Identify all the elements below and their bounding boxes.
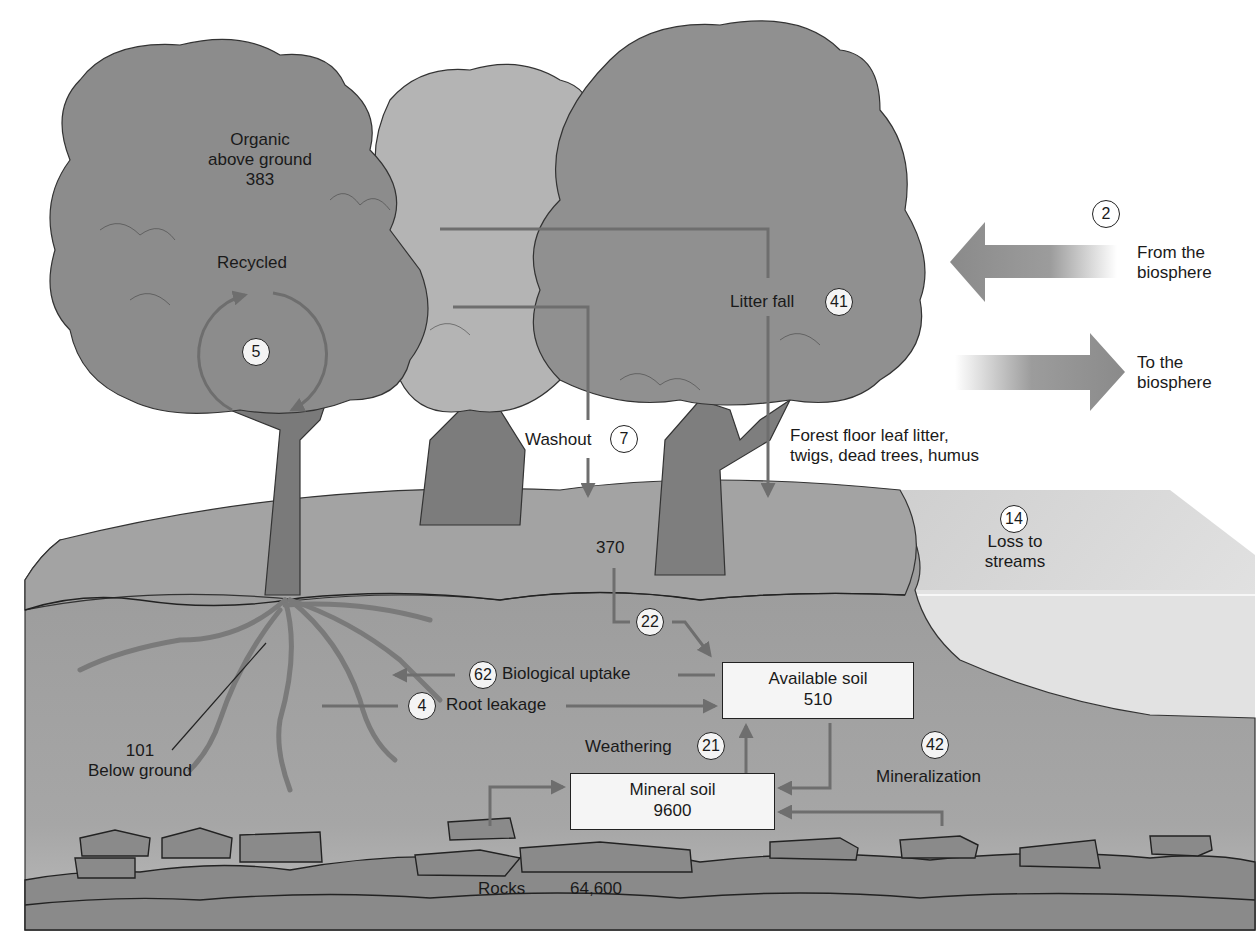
to-biosphere-arrow	[955, 333, 1125, 411]
to-biosphere-line2: biosphere	[1137, 373, 1212, 393]
from-biosphere-line2: biosphere	[1137, 263, 1212, 283]
floor-to-available-badge: 22	[636, 608, 664, 636]
litter-fall-badge: 41	[825, 288, 853, 316]
mineralization-label: Mineralization	[876, 767, 981, 787]
loss-to-streams-label: Loss to streams	[970, 532, 1060, 572]
forest-floor-line2: twigs, dead trees, humus	[790, 446, 979, 466]
to-biosphere-label: To the biosphere	[1137, 353, 1212, 393]
below-ground-text: Below ground	[70, 761, 210, 781]
forest-floor-line1: Forest floor leaf litter,	[790, 426, 979, 446]
from-biosphere-line1: From the	[1137, 243, 1212, 263]
biological-uptake-label: Biological uptake	[502, 664, 631, 684]
organic-line2: above ground	[190, 150, 330, 170]
rocks-value: 64,600	[570, 879, 622, 899]
washout-label: Washout	[525, 430, 591, 450]
below-ground-label: 101 Below ground	[70, 741, 210, 781]
recycled-badge: 5	[242, 338, 270, 366]
weathering-badge: 21	[697, 732, 725, 760]
weathering-label: Weathering	[585, 737, 672, 757]
organic-line1: Organic	[190, 130, 330, 150]
loss-to-streams-line1: Loss to	[970, 532, 1060, 552]
washout-badge: 7	[610, 425, 638, 453]
from-biosphere-arrow	[950, 222, 1117, 302]
from-biosphere-badge: 2	[1092, 200, 1120, 228]
available-soil-value: 510	[723, 689, 913, 710]
organic-above-label: Organic above ground 383	[190, 130, 330, 190]
available-soil-box: Available soil 510	[722, 662, 914, 719]
mineral-soil-label: Mineral soil	[571, 779, 774, 800]
root-leakage-badge: 4	[408, 692, 436, 720]
from-biosphere-label: From the biosphere	[1137, 243, 1212, 283]
to-biosphere-line1: To the	[1137, 353, 1212, 373]
below-ground-value: 101	[70, 741, 210, 761]
organic-value: 383	[190, 170, 330, 190]
rocks-label: Rocks	[478, 879, 525, 899]
available-soil-label: Available soil	[723, 668, 913, 689]
mineral-soil-value: 9600	[571, 800, 774, 821]
loss-to-streams-badge: 14	[1000, 505, 1028, 533]
forest-floor-value: 370	[596, 538, 624, 558]
biological-uptake-badge: 62	[469, 661, 497, 689]
loss-to-streams-line2: streams	[970, 552, 1060, 572]
litter-fall-label: Litter fall	[730, 292, 794, 312]
recycled-label: Recycled	[217, 253, 287, 273]
forest-floor-label: Forest floor leaf litter, twigs, dead tr…	[790, 426, 979, 466]
mineralization-badge: 42	[921, 731, 949, 759]
mineral-soil-box: Mineral soil 9600	[570, 773, 775, 830]
root-leakage-label: Root leakage	[446, 695, 546, 715]
